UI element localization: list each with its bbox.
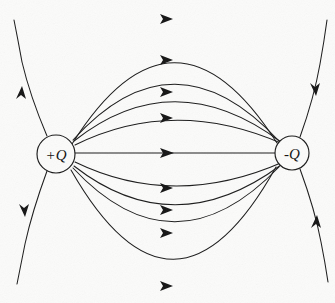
- field-line-canvas: +Q -Q: [0, 0, 335, 303]
- positive-charge-label: +Q: [46, 147, 67, 163]
- dipole-field-diagram: +Q -Q: [0, 0, 335, 303]
- negative-charge-marker: -Q: [275, 136, 309, 170]
- negative-charge-label: -Q: [284, 146, 300, 162]
- positive-charge-marker: +Q: [37, 135, 75, 173]
